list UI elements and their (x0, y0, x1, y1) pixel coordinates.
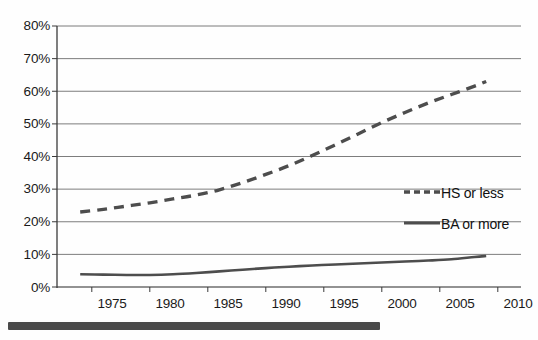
x-tick-label: 1975 (87, 297, 137, 311)
x-tick-label: 2010 (493, 297, 538, 311)
legend-label-hs-or-less: HS or less (441, 186, 504, 200)
chart-figure: 80% 70% 60% 50% 40% 30% 20% 10% 0% 1975 … (0, 0, 538, 340)
y-tick-label: 70% (4, 52, 50, 66)
x-tick-label: 2000 (377, 297, 427, 311)
series-line-ba-or-more (80, 256, 486, 275)
y-tick-label: 0% (4, 281, 50, 295)
y-tick-label: 10% (4, 248, 50, 262)
legend-markers (404, 192, 440, 223)
x-tick-label: 1980 (145, 297, 195, 311)
y-tick-label: 50% (4, 117, 50, 131)
x-tick-label: 1995 (319, 297, 369, 311)
y-tick-label: 40% (4, 150, 50, 164)
gridlines (57, 26, 521, 287)
x-axis-ticks (52, 26, 498, 292)
x-tick-label: 1990 (261, 297, 311, 311)
bottom-redaction-bar (8, 322, 380, 330)
legend-label-ba-or-more: BA or more (441, 217, 509, 231)
y-tick-label: 20% (4, 215, 50, 229)
y-tick-label: 80% (4, 19, 50, 33)
x-tick-label: 1985 (203, 297, 253, 311)
y-tick-label: 60% (4, 85, 50, 99)
chart-canvas (0, 0, 538, 340)
data-series-group (80, 81, 486, 275)
y-tick-label: 30% (4, 182, 50, 196)
x-tick-label: 2005 (435, 297, 485, 311)
